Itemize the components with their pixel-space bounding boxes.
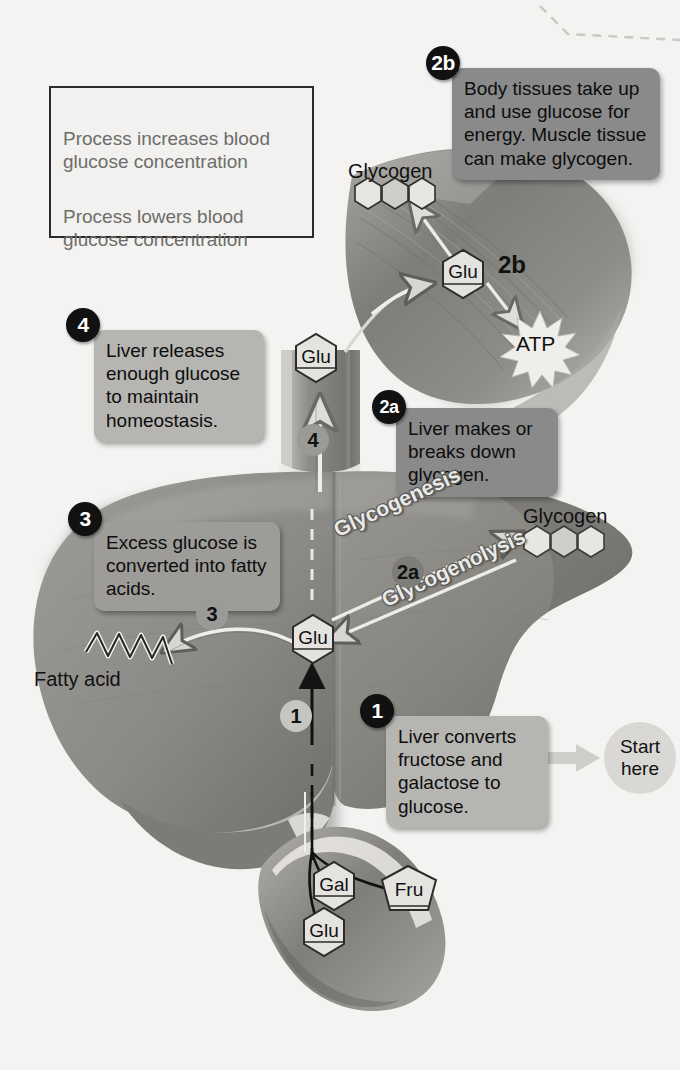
start-here-line2: here bbox=[621, 758, 659, 780]
fru-token: Fru bbox=[389, 876, 429, 904]
start-here-arrow-icon bbox=[544, 744, 600, 772]
fatty-acid-label: Fatty acid bbox=[34, 668, 124, 690]
step-marker-2b: 2b bbox=[498, 252, 526, 278]
atp-label: ATP bbox=[516, 332, 555, 355]
badge-1: 1 bbox=[360, 694, 394, 728]
glycogen-chain-muscle bbox=[355, 178, 435, 209]
glu-token-gut: Glu bbox=[304, 917, 344, 945]
callout-4: Liver releases enough glucose to maintai… bbox=[94, 330, 264, 442]
badge-2a: 2a bbox=[372, 390, 406, 424]
glycogen-label-liver: Glycogen bbox=[523, 505, 608, 527]
glycogen-chain-liver bbox=[524, 526, 604, 557]
badge-2b: 2b bbox=[426, 46, 460, 80]
callout-2b: Body tissues take up and use glucose for… bbox=[452, 68, 660, 180]
start-here-marker: Start here bbox=[604, 722, 676, 794]
legend-lower-label: Process lowers blood glucose concentrati… bbox=[63, 206, 312, 252]
step-marker-1-dot: 1 bbox=[280, 700, 312, 732]
step-marker-3-dot: 3 bbox=[196, 598, 228, 630]
glu-token-muscle: Glu bbox=[443, 258, 483, 286]
start-here-line1: Start bbox=[620, 736, 660, 758]
step-marker-4-dot: 4 bbox=[297, 424, 329, 456]
diagram-canvas: Process increases blood glucose concentr… bbox=[0, 0, 680, 1070]
hepatic-vein-shape bbox=[279, 350, 362, 496]
gal-token: Gal bbox=[314, 871, 354, 899]
glycogen-label-muscle: Glycogen bbox=[348, 160, 433, 182]
legend-increase-label: Process increases blood glucose concentr… bbox=[63, 128, 312, 174]
callout-3: Excess glucose is converted into fatty a… bbox=[94, 522, 280, 611]
badge-3: 3 bbox=[68, 502, 102, 536]
badge-4: 4 bbox=[66, 308, 100, 342]
glu-token-liver: Glu bbox=[293, 624, 333, 652]
legend-box: Process increases blood glucose concentr… bbox=[49, 86, 314, 238]
callout-1: Liver converts fructose and galactose to… bbox=[386, 716, 548, 828]
glu-token-vein: Glu bbox=[296, 343, 336, 371]
step-marker-2a-dot: 2a bbox=[392, 556, 424, 588]
zigzag-lipid-icon bbox=[86, 633, 172, 664]
